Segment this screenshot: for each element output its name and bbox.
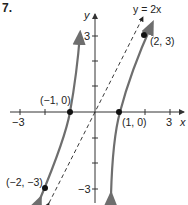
point-1-0 xyxy=(116,109,122,115)
point-neg2-neg3 xyxy=(42,185,48,191)
point-2-3 xyxy=(141,32,147,38)
label-neg2-neg3: (−2, −3) xyxy=(6,176,43,188)
label-2-3: (2, 3) xyxy=(150,35,175,47)
x-tick-label-neg3: −3 xyxy=(12,116,25,128)
point-neg1-0 xyxy=(67,109,73,115)
label-neg1-0: (−1, 0) xyxy=(40,94,71,106)
graph: 7. −3 3 x y 3 −3 y = 2x (−1, 0) (1, 0) (… xyxy=(0,0,188,205)
right-branch-curve xyxy=(111,24,152,195)
x-tick-label-3: 3 xyxy=(166,116,172,128)
x-axis-label: x xyxy=(179,116,186,128)
y-tick-label-3: 3 xyxy=(84,30,90,42)
x-axis xyxy=(10,109,184,115)
asymptote-label: y = 2x xyxy=(133,3,162,15)
y-tick-label-neg3: −3 xyxy=(78,183,91,195)
problem-number: 7. xyxy=(2,1,12,15)
asymptote-line xyxy=(49,17,143,203)
left-branch-curve xyxy=(40,34,80,199)
y-axis-label: y xyxy=(83,9,91,21)
label-1-0: (1, 0) xyxy=(122,116,147,128)
